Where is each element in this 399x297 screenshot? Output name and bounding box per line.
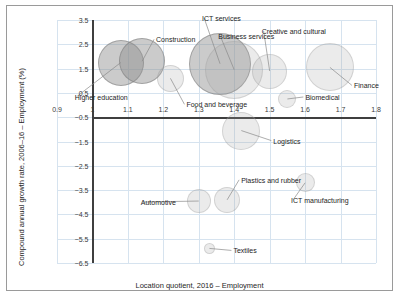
x-tick-label: 1.8 [356,106,396,113]
data-bubble [157,65,184,92]
gridline-horizontal [57,214,376,215]
data-bubble [187,189,211,213]
x-tick-label: 0.9 [37,106,77,113]
gridline-vertical [376,20,377,263]
x-axis-title: Location quotient, 2016 – Employment [0,281,399,290]
y-tick-label: 2.5 [44,41,88,48]
y-axis-line [92,20,94,263]
data-point-label: Textiles [233,247,256,254]
data-bubble [252,54,287,89]
data-bubble [214,187,240,213]
data-point-label: ICT manufacturing [291,197,348,204]
y-axis-title: Compound annual growth rate, 2006–16 – E… [17,68,26,266]
x-tick-label: 1.1 [108,106,148,113]
y-tick-label: −5.5 [44,236,88,243]
y-tick-label: −2.5 [44,163,88,170]
data-point-label: Food and beverage [186,101,247,108]
x-tick-label: 1.2 [143,106,183,113]
y-tick-label: −4.5 [44,211,88,218]
y-tick-label: −1.5 [44,139,88,146]
data-point-label: Biomedical [305,94,339,101]
x-tick-label: 1.7 [321,106,361,113]
bubble-chart-figure: Location quotient, 2016 – Employment Com… [0,0,399,297]
x-tick-label: 1 [72,106,112,113]
gridline-horizontal [57,239,376,240]
plot-area [57,20,376,263]
data-point-label: Plastics and rubber [241,177,301,184]
data-point-label: Automotive [141,199,176,206]
y-tick-label: −6.5 [44,260,88,267]
gridline-horizontal [57,142,376,143]
y-tick-label: −0.5 [44,114,88,121]
data-bubble [306,43,354,91]
data-point-label: Creative and cultural [262,28,326,35]
data-point-label: Logistics [273,138,300,145]
gridline-horizontal [57,263,376,264]
data-point-label: Finance [354,82,379,89]
x-tick-label: 1.6 [285,106,325,113]
data-point-label: Construction [156,36,195,43]
data-bubble [222,112,260,150]
data-bubble [204,243,215,254]
data-point-label: ICT services [202,15,241,22]
gridline-horizontal [57,166,376,167]
y-tick-label: 3.5 [44,17,88,24]
data-point-label: Higher education [75,94,128,101]
y-tick-label: 1.5 [44,66,88,73]
y-tick-label: −3.5 [44,187,88,194]
x-tick-label: 1.5 [250,106,290,113]
